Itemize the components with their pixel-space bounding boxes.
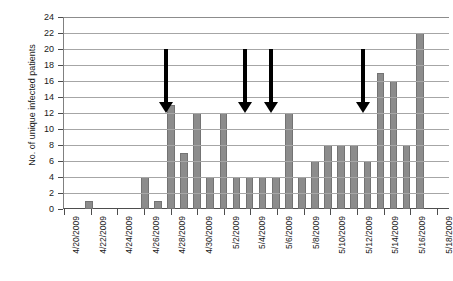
x-axis-tick [304,209,305,215]
y-axis-tick [58,145,63,146]
x-axis-tick [117,209,118,215]
y-axis-tick-label: 22 [44,28,54,38]
y-axis-tick [58,81,63,82]
bar-chart: No. of unique infected patients 02468101… [0,0,453,281]
x-axis-tick [330,209,331,215]
y-axis-tick [58,193,63,194]
x-axis-tick-label: 5/16/2009 [417,216,427,254]
y-axis-tick [58,49,63,50]
y-axis-tick-label: 2 [49,188,54,198]
bar [364,161,372,209]
x-axis-tick-label: 5/14/2009 [390,216,400,254]
gridline [64,129,449,130]
x-axis-tick-label: 5/8/2009 [311,216,321,249]
x-axis-tick [437,209,438,215]
down-arrow-annotation [269,49,273,104]
gridline [64,145,449,146]
x-axis-tick-label: 4/30/2009 [204,216,214,254]
x-axis-tick-labels: 4/20/20094/22/20094/24/20094/26/20094/28… [63,216,449,280]
gridline [64,193,449,194]
y-axis-tick [58,113,63,114]
x-axis-tick-label: 5/2/2009 [231,216,241,249]
x-axis-tick [197,209,198,215]
bar [416,33,424,209]
x-axis-tick [144,209,145,215]
x-axis-tick [250,209,251,215]
x-axis-tick [384,209,385,215]
x-axis-tick [224,209,225,215]
y-axis-tick-label: 24 [44,12,54,22]
down-arrow-annotation [361,49,365,104]
y-axis-tick-label: 14 [44,92,54,102]
gridline [64,81,449,82]
gridline [64,17,449,18]
x-axis-tick-label: 4/20/2009 [71,216,81,254]
y-axis-tick-label: 4 [49,172,54,182]
y-axis-tick-label: 8 [49,140,54,150]
x-axis-tick-label: 4/28/2009 [177,216,187,254]
y-axis-tick [58,209,63,210]
gridline [64,33,449,34]
gridline [64,113,449,114]
y-axis-tick [58,97,63,98]
x-axis-tick [357,209,358,215]
plot-area [63,17,449,209]
y-axis-tick [58,17,63,18]
y-axis-tick-label: 10 [44,124,54,134]
gridline [64,177,449,178]
x-axis-tick [277,209,278,215]
x-axis-tick-label: 5/10/2009 [337,216,347,254]
down-arrow-head-icon [159,102,173,113]
y-axis-tick-labels: 024681012141618202224 [26,0,54,281]
down-arrow-head-icon [264,102,278,113]
gridline [64,161,449,162]
down-arrow-head-icon [238,102,252,113]
y-axis-tick [58,65,63,66]
y-axis-tick [58,161,63,162]
x-axis-tick-label: 5/4/2009 [257,216,267,249]
x-axis-tick-label: 4/22/2009 [98,216,108,254]
y-axis-tick-label: 12 [44,108,54,118]
x-axis-tick-label: 5/6/2009 [284,216,294,249]
x-axis-tick [171,209,172,215]
y-axis-tick-label: 18 [44,60,54,70]
gridline [64,49,449,50]
y-axis-tick [58,177,63,178]
gridline [64,97,449,98]
x-axis-tick-label: 4/26/2009 [151,216,161,254]
x-axis-tick [91,209,92,215]
x-axis-tick-label: 5/12/2009 [364,216,374,254]
y-axis-tick-label: 20 [44,44,54,54]
x-axis-tick [410,209,411,215]
y-axis-tick [58,129,63,130]
gridline [64,65,449,66]
bar [85,201,93,209]
y-axis-tick-label: 6 [49,156,54,166]
x-axis-tick-label: 5/18/2009 [444,216,453,254]
y-axis-tick-label: 0 [49,204,54,214]
y-axis-tick [58,33,63,34]
x-axis-tick-label: 4/24/2009 [124,216,134,254]
y-axis-tick-label: 16 [44,76,54,86]
down-arrow-annotation [243,49,247,104]
bar [154,201,162,209]
down-arrow-annotation [164,49,168,104]
bar [311,161,319,209]
bar [377,73,385,209]
down-arrow-head-icon [356,102,370,113]
x-axis-tick [64,209,65,215]
